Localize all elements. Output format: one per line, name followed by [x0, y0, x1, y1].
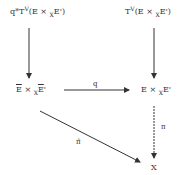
text: E ×: [141, 85, 159, 94]
text: X: [151, 163, 157, 172]
node-mid-left: E × XE': [16, 86, 46, 94]
text: E': [163, 85, 171, 94]
diagonal-arrow-pibar: [40, 111, 140, 162]
node-bottom-right: X: [151, 164, 157, 172]
sub: X: [159, 89, 163, 96]
text: E'): [160, 7, 171, 16]
label-q: q: [93, 81, 97, 88]
text: ×: [22, 85, 34, 94]
text: E'): [54, 7, 65, 16]
text: (E ×: [135, 7, 156, 16]
text: (E ×: [29, 7, 50, 16]
sub: X: [50, 11, 54, 18]
text: q*T: [10, 7, 24, 16]
sup: V: [130, 5, 134, 12]
label-pibar: π̄: [76, 139, 81, 146]
text: ': [44, 85, 46, 94]
node-top-left: q*TV(E × XE'): [10, 8, 65, 16]
node-top-right: TV(E × XE'): [125, 8, 171, 16]
node-mid-right: E × XE': [141, 86, 171, 94]
sub: X: [34, 89, 38, 96]
sub: X: [155, 11, 159, 18]
sup: V: [24, 5, 28, 12]
label-pi: π: [161, 124, 166, 131]
